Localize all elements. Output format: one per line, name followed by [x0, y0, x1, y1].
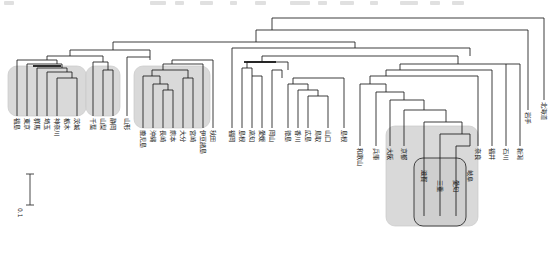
leaf-label: 岩手	[524, 112, 531, 124]
leaf-label: 栃木	[63, 118, 70, 130]
leaf-label: 宮崎	[189, 130, 196, 142]
leaf-label: 島根	[238, 130, 245, 142]
leaf-label: 新潟	[516, 148, 523, 160]
leaf-label: 山形	[123, 118, 130, 130]
leaf-label: 岡山	[268, 130, 275, 142]
leaf-label: 三重	[436, 180, 443, 192]
leaf-label: 埼玉	[43, 118, 50, 130]
leaf-label: 徳島	[284, 130, 291, 142]
leaf-label: 沖縄	[149, 130, 156, 142]
leaf-label: 福井	[488, 148, 495, 160]
leaf-label: 秋田	[209, 130, 216, 142]
leaf-label: 北海道	[540, 102, 547, 120]
leaf-label: 鹿児島	[139, 130, 146, 148]
leaf-label: 愛媛	[258, 130, 265, 142]
leaf-label: 島根	[340, 130, 347, 142]
leaf-label: 群馬	[33, 118, 40, 130]
leaf-label: 東京	[23, 118, 30, 130]
leaf-label: 福岡	[228, 130, 235, 142]
leaf-label: 愛知	[452, 180, 459, 192]
leaf-label: 兵庫	[372, 148, 379, 160]
leaf-label: 石川	[502, 148, 509, 160]
leaf-label: 岐阜	[466, 170, 473, 182]
cluster-highlight-boxes	[8, 66, 478, 226]
leaf-label: 大阪	[386, 148, 393, 160]
leaf-label: 静岡	[109, 118, 116, 130]
dendrogram-canvas	[0, 0, 554, 256]
leaf-label: 神奈川	[53, 118, 60, 136]
leaf-label: 広島	[304, 130, 311, 142]
leaf-label: 和歌山	[356, 148, 363, 166]
leaf-label: 茨城	[73, 118, 80, 130]
leaf-label: 福島	[13, 118, 20, 130]
leaf-label: 千葉	[89, 118, 96, 130]
leaf-label: 長崎	[159, 130, 166, 142]
leaf-label: 香川	[294, 130, 301, 142]
leaf-label: 大分	[179, 130, 186, 142]
leaf-label: 山口	[324, 130, 331, 142]
leaf-label: 鳥取	[314, 130, 321, 142]
cluster-highlight-kyushu	[134, 66, 210, 128]
leaf-label: 滋賀	[420, 170, 427, 182]
leaf-label: 奈良	[474, 148, 481, 160]
leaf-label: 山梨	[99, 118, 106, 130]
scale-bar	[26, 174, 34, 205]
leaf-label: 熊本	[169, 130, 176, 142]
leaf-label: 京都	[400, 148, 407, 160]
leaf-label: 伊豆諸島	[199, 130, 206, 154]
dendrogram-figure: 福島東京群馬埼玉神奈川栃木茨城千葉山梨静岡山形鹿児島沖縄長崎熊本大分宮崎伊豆諸島…	[0, 0, 554, 256]
leaf-label: 高知	[248, 130, 255, 142]
scale-bar-label: 0.1	[17, 208, 24, 218]
